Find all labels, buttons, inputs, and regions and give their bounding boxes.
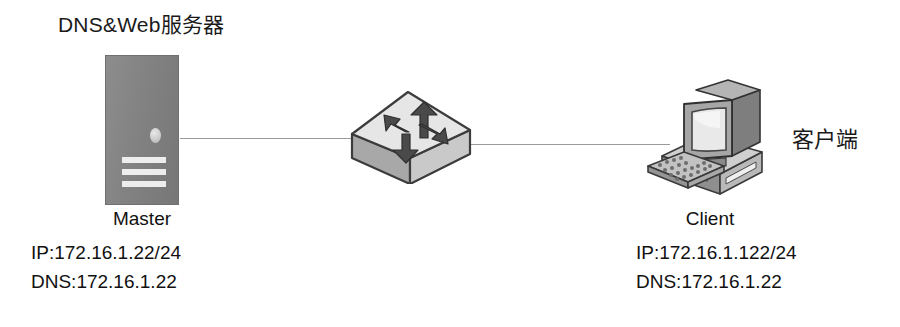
network-diagram-canvas: DNS&Web服务器 Master IP:172.16.1.22/24 DNS:…: [0, 0, 900, 327]
server-title-han: 服务器: [161, 13, 225, 37]
client-ip-text: IP:172.16.1.122/24: [636, 238, 797, 267]
desktop-computer-icon: [646, 78, 774, 202]
client-info-block: IP:172.16.1.122/24 DNS:172.16.1.22: [636, 238, 797, 296]
switch-node[interactable]: [348, 88, 474, 184]
server-ip-text: IP:172.16.1.22/24: [31, 238, 181, 267]
server-title-label: DNS&Web服务器: [58, 8, 224, 38]
server-dns-text: DNS:172.16.1.22: [31, 267, 181, 296]
server-caption: Master: [105, 208, 179, 230]
client-dns-text: DNS:172.16.1.22: [636, 267, 797, 296]
client-caption: Client: [668, 208, 752, 230]
server-info-block: IP:172.16.1.22/24 DNS:172.16.1.22: [31, 238, 181, 296]
link-server-to-switch: [180, 138, 352, 139]
server-tower-icon: [105, 55, 179, 205]
client-side-label: 客户端: [792, 121, 858, 153]
server-drive-bay-icon: [122, 169, 166, 175]
server-drive-bay-icon: [122, 181, 166, 187]
server-drive-bay-icon: [122, 157, 166, 163]
server-title-latin: DNS&Web: [58, 13, 161, 36]
link-switch-to-client: [470, 144, 670, 145]
client-node[interactable]: [646, 78, 774, 202]
network-switch-icon: [348, 88, 474, 184]
server-power-led-icon: [150, 128, 161, 143]
